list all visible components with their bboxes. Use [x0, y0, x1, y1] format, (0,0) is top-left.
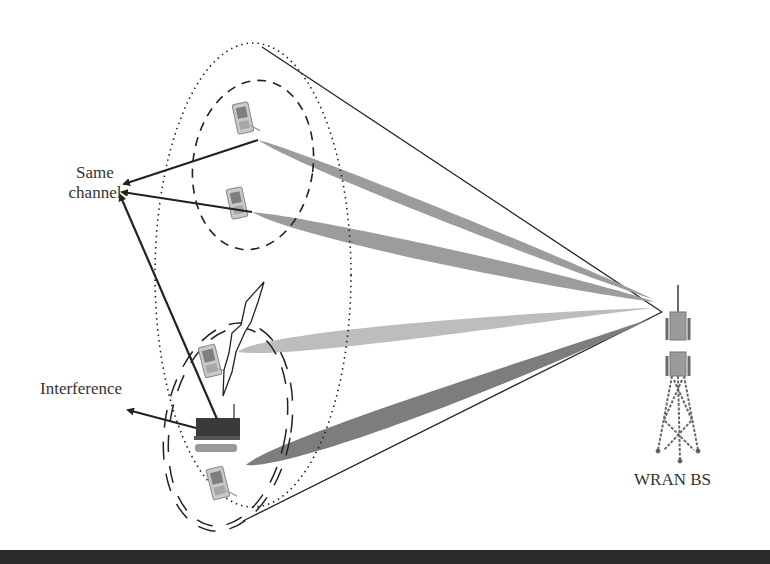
beam-cpe-2 — [252, 212, 655, 302]
base-station-label: WRAN BS — [634, 470, 711, 490]
handset-icon — [198, 343, 227, 378]
same-channel-label-line1: Same — [58, 163, 132, 183]
handset-icon — [206, 464, 237, 502]
handset-icon — [226, 187, 248, 220]
tower-icon — [656, 285, 700, 463]
interferer-device-icon — [194, 404, 240, 452]
same-channel-label: Same channel — [58, 163, 132, 203]
same-channel-arrows — [120, 140, 258, 419]
interference-bolt-icon — [223, 282, 264, 396]
same-channel-label-line2: channel — [58, 183, 132, 203]
bottom-border-bar — [0, 550, 770, 564]
handset-icon — [232, 100, 260, 135]
beam-cpe-1 — [258, 140, 655, 300]
interference-label: Interference — [40, 379, 122, 399]
interference-arrow — [128, 410, 196, 428]
